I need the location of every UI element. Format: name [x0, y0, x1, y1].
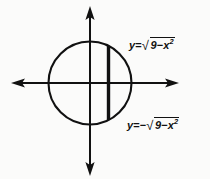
upper-label-exponent: 2	[169, 37, 173, 46]
coordinate-plane-graphic	[0, 0, 210, 179]
lower-label-sqrt-icon: √	[146, 118, 153, 133]
upper-label-sqrt-icon: √	[142, 38, 149, 53]
lower-semicircle-equation-label: y=−√9−x2	[127, 118, 179, 131]
lower-label-exponent: 2	[174, 117, 178, 126]
x-axis	[11, 78, 179, 87]
upper-label-equals: =	[135, 39, 142, 51]
math-figure: y=√9−x2 y=−√9−x2	[0, 0, 210, 179]
lower-label-radicand: 9−x2	[154, 117, 179, 131]
upper-semicircle-equation-label: y=√9−x2	[129, 38, 175, 51]
y-axis	[85, 6, 94, 176]
upper-label-radicand: 9−x2	[150, 37, 175, 51]
